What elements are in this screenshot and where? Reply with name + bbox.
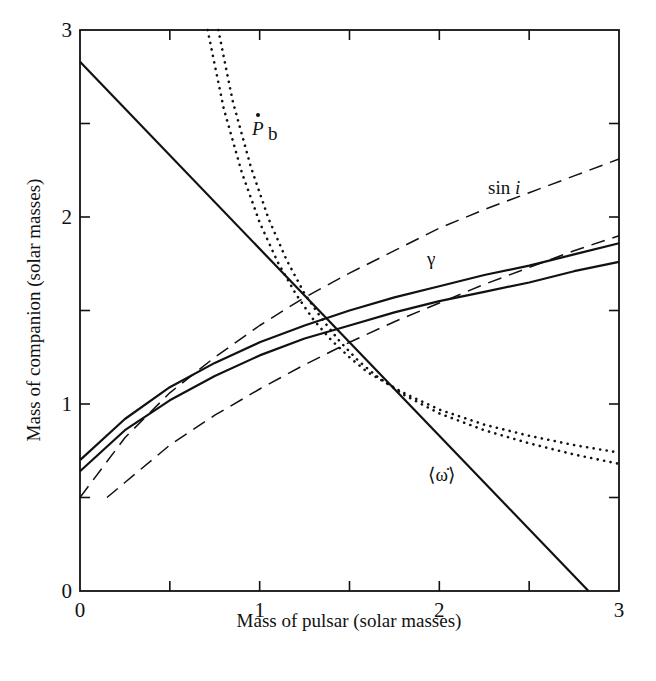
dot-accent-icon [256,113,260,117]
label-gamma: γ [426,248,435,269]
curves-layer [80,30,619,591]
y-tick-label: 2 [62,205,73,229]
y-tick-label: 3 [62,18,73,42]
label-pb-dot: P b [251,113,278,144]
label-sin-i: sin i [488,177,520,198]
y-axis-title: Mass of companion (solar masses) [23,179,45,442]
y-tick-label: 0 [62,579,73,603]
y-tick-label: 1 [62,392,73,416]
x-tick-label: 0 [75,598,86,622]
svg-text:b: b [268,123,278,144]
series-omega-dot-periastron-advance- [80,62,589,591]
tick-labels-layer: 01230123 [62,18,625,622]
x-tick-label: 3 [614,598,625,622]
series-gamma-lower [80,262,619,471]
svg-text:sin i: sin i [488,177,520,198]
label-omega-dot: ⟨ω̇⟩ [428,464,455,485]
x-axis-title: Mass of pulsar (solar masses) [237,610,462,632]
series-gamma-upper [80,243,619,460]
series-p-b-dot-lower [218,30,619,464]
series-sin-i-lower [107,236,619,498]
series-sin-i-upper [80,159,619,498]
mass-mass-diagram: 01230123 Mass of pulsar (solar masses) M… [0,0,656,681]
svg-text:P: P [251,118,264,139]
